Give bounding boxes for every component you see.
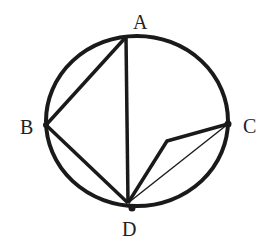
circle <box>46 36 228 206</box>
segment-ad <box>126 37 128 203</box>
circle-diagram: A B C D <box>0 0 272 245</box>
segment-cd-thin <box>128 124 228 203</box>
point-b-dot <box>43 122 49 128</box>
label-c: C <box>243 115 256 137</box>
label-d: D <box>122 218 136 240</box>
label-b: B <box>20 116 33 138</box>
point-c-dot <box>225 121 232 128</box>
point-d-dot <box>129 205 136 212</box>
label-a: A <box>133 11 148 33</box>
